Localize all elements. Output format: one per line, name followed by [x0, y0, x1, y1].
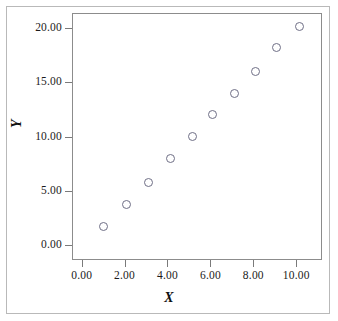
data-point-marker — [144, 178, 153, 187]
y-axis-tick-label: 10.00 — [4, 131, 62, 143]
y-axis-title: Y — [9, 119, 25, 128]
x-axis-tick — [167, 260, 168, 267]
y-axis-tick-label: 15.00 — [4, 76, 62, 88]
x-axis-tick — [210, 260, 211, 267]
y-axis-tick-label: 0.00 — [4, 239, 62, 251]
y-axis-tick — [65, 137, 72, 138]
data-point-marker — [295, 22, 304, 31]
x-axis-tick — [82, 260, 83, 267]
y-axis-tick — [65, 191, 72, 192]
data-point-marker — [230, 89, 239, 98]
y-axis-tick — [65, 28, 72, 29]
y-axis-tick-label: 20.00 — [4, 22, 62, 34]
x-axis-tick — [125, 260, 126, 267]
data-point-marker — [188, 132, 197, 141]
y-axis-tick-label: 5.00 — [4, 185, 62, 197]
x-axis-tick — [253, 260, 254, 267]
x-axis-tick — [296, 260, 297, 267]
data-point-marker — [166, 154, 175, 163]
y-axis-tick — [65, 245, 72, 246]
x-axis-tick-label: 10.00 — [266, 270, 326, 282]
y-axis-tick — [65, 82, 72, 83]
scatter-plot-figure: 0.005.0010.0015.0020.000.002.004.006.008… — [0, 0, 338, 321]
plot-area — [72, 13, 322, 260]
x-axis-title: X — [0, 290, 338, 306]
data-point-marker — [251, 67, 260, 76]
